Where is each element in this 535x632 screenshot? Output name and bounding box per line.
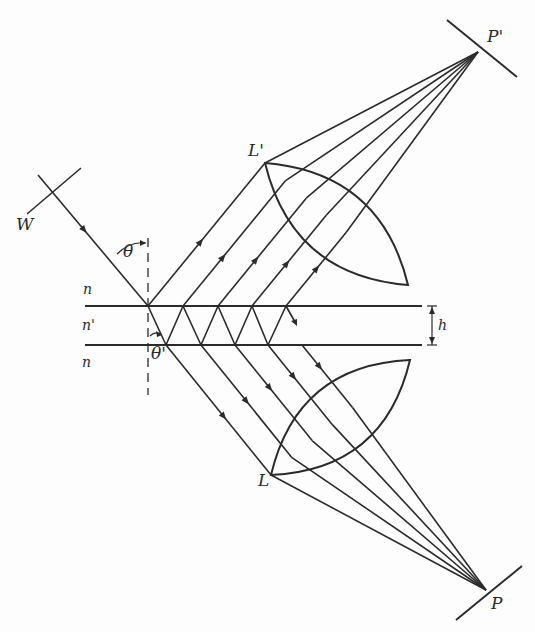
wavefront-W xyxy=(27,168,81,214)
label-theta: θ xyxy=(123,243,133,260)
transmitted-ray-3 xyxy=(235,345,312,441)
label-thickness-h: h xyxy=(438,318,447,332)
internal-ray-down xyxy=(252,306,268,345)
reflected-focused-ray-1 xyxy=(265,52,478,163)
transmitted-ray-1 xyxy=(166,345,271,475)
label-focus-P: P xyxy=(491,595,502,612)
transmitted-ray-4 xyxy=(268,345,332,424)
internal-ray-up xyxy=(166,306,183,345)
h-arrow-bottom-icon xyxy=(429,337,435,344)
internal-ray-down xyxy=(183,306,201,345)
reflected-ray-1 xyxy=(148,163,265,306)
optics-diagram: W θ n n' n θ' h L' L P' P xyxy=(0,0,535,632)
focal-plane-P xyxy=(456,566,522,620)
reflected-ray-3 xyxy=(218,198,306,306)
transmitted-focused-ray-3 xyxy=(312,441,486,590)
label-n-plate: n' xyxy=(82,318,95,332)
internal-ray-continuing xyxy=(286,306,295,322)
reflected-focused-ray-3 xyxy=(306,52,478,198)
internal-ray-up xyxy=(268,306,286,345)
reflected-focused-ray-2 xyxy=(286,52,478,181)
continuing-arrow-icon xyxy=(291,319,297,326)
internal-ray-down xyxy=(218,306,235,345)
h-arrow-top-icon xyxy=(429,307,435,314)
internal-ray-down xyxy=(148,306,166,345)
internal-ray-up xyxy=(201,306,218,345)
label-lens-Lprime: L' xyxy=(248,142,264,159)
interference-plate-figure xyxy=(0,0,535,632)
label-lens-L: L xyxy=(258,472,269,489)
label-theta-prime: θ' xyxy=(151,345,166,362)
transmitted-ray-5 xyxy=(302,345,353,408)
transmitted-focused-ray-1 xyxy=(271,475,486,590)
label-wavefront-W: W xyxy=(16,216,33,233)
theta-arrow-icon xyxy=(140,240,146,246)
transmitted-focused-ray-2 xyxy=(292,458,486,590)
label-n-top: n xyxy=(83,282,92,296)
label-n-bottom: n xyxy=(82,355,91,369)
label-focus-Pprime: P' xyxy=(487,28,503,45)
internal-ray-up xyxy=(235,306,252,345)
